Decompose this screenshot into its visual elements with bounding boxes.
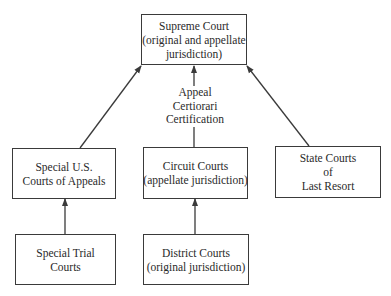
- node-text-line: Circuit Courts: [163, 159, 229, 173]
- node-text-line: (appellate jurisdiction): [143, 173, 247, 187]
- node-text-line: of: [323, 165, 333, 179]
- edge-label-line: Certiorari: [164, 100, 226, 114]
- node-special-us-courts-of-appeals: Special U.S. Courts of Appeals: [12, 148, 116, 199]
- node-supreme-court: Supreme Court (original and appellate ju…: [141, 14, 247, 65]
- edge-label-line: Appeal: [164, 86, 226, 100]
- edge-label-line: Certification: [164, 113, 226, 127]
- node-text-line: jurisdiction): [166, 47, 222, 61]
- node-text-line: Special U.S.: [35, 160, 92, 174]
- arrow-special-appeals-to-supreme: [80, 66, 141, 148]
- node-text-line: Courts of Appeals: [22, 174, 105, 188]
- node-text-line: Special Trial: [36, 246, 94, 260]
- node-circuit-courts: Circuit Courts (appellate jurisdiction): [143, 147, 248, 199]
- node-special-trial-courts: Special Trial Courts: [15, 234, 116, 285]
- node-text-line: (original jurisdiction): [147, 260, 246, 274]
- node-text-line: Last Resort: [302, 179, 355, 193]
- node-text-line: District Courts: [162, 246, 230, 260]
- node-text-line: Supreme Court: [159, 19, 229, 33]
- node-text-line: (original and appellate: [142, 33, 245, 47]
- node-district-courts: District Courts (original jurisdiction): [143, 234, 249, 285]
- node-text-line: State Courts: [300, 151, 357, 165]
- node-state-courts-of-last-resort: State Courts of Last Resort: [275, 146, 381, 198]
- node-text-line: Courts: [50, 260, 81, 274]
- arrow-state-to-supreme: [247, 66, 309, 146]
- edge-label-review-types: Appeal Certiorari Certification: [164, 86, 226, 127]
